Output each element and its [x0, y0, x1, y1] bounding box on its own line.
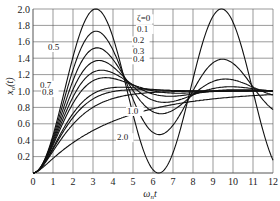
series-label: 1.0: [127, 106, 139, 116]
series-label: ζ=0: [137, 13, 151, 23]
x-tick-label: 11: [248, 176, 258, 187]
series-label: 0.8: [42, 87, 54, 97]
y-axis-label: xo(t): [4, 77, 17, 96]
series-label: 0.1: [137, 24, 148, 34]
y-tick-label: 1.8: [18, 20, 31, 31]
x-tick-label: 2: [71, 176, 76, 187]
series-label: 0.4: [133, 54, 145, 64]
y-tick-label: 1.4: [18, 53, 31, 64]
x-tick-label: 8: [191, 176, 196, 187]
y-tick-label: 0.4: [18, 135, 31, 146]
x-axis-label: ωnt: [143, 188, 157, 201]
x-tick-label: 4: [111, 176, 116, 187]
x-tick-label: 6: [151, 176, 156, 187]
x-tick-label: 0: [31, 176, 36, 187]
x-tick-label: 3: [91, 176, 96, 187]
x-tick-label: 5: [131, 176, 136, 187]
x-tick-label: 1: [51, 176, 56, 187]
x-tick-label: 7: [171, 176, 176, 187]
series-label: 0.2: [133, 35, 144, 45]
y-tick-label: 0.6: [18, 118, 31, 129]
x-tick-label: 9: [211, 176, 216, 187]
step-response-chart: ζ=00.10.20.30.40.50.70.81.02.0 012345678…: [0, 0, 280, 201]
y-tick-label: 1.0: [18, 86, 31, 97]
y-tick-label: 1.2: [18, 69, 31, 80]
x-tick-label: 12: [268, 176, 278, 187]
x-tick-label: 10: [228, 176, 238, 187]
series-label: 2.0: [117, 132, 129, 142]
y-tick-label: 0.2: [18, 151, 31, 162]
y-tick-label: 2.0: [18, 4, 31, 15]
series-label: 0.5: [48, 42, 60, 52]
y-tick-label: 0.8: [18, 102, 31, 113]
y-tick-label: 1.6: [18, 36, 31, 47]
